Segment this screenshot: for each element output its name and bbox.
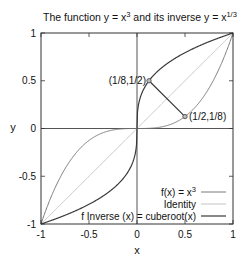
y-tick-label: 0.5 bbox=[22, 75, 36, 86]
plot-area: (1/8,1/2)(1/2,1/8) bbox=[41, 33, 233, 224]
x-tick-label: -1 bbox=[37, 229, 46, 240]
data-point-marker bbox=[183, 114, 187, 118]
legend-label: f(x) = x3 bbox=[161, 185, 196, 198]
legend-label: f Inverse (x) = cuberoot(x) bbox=[81, 211, 196, 222]
y-tick-label: -0.5 bbox=[19, 171, 37, 182]
y-tick-label: 0 bbox=[30, 123, 36, 134]
chart-svg: The function y = x3 and its inverse y = … bbox=[0, 0, 251, 267]
legend-label: Identity bbox=[164, 199, 196, 210]
x-tick-label: 0 bbox=[134, 229, 140, 240]
chart-title: The function y = x3 and its inverse y = … bbox=[43, 10, 237, 23]
x-tick-label: 0.5 bbox=[178, 229, 192, 240]
legend: f(x) = x3Identityf Inverse (x) = cuberoo… bbox=[81, 185, 226, 222]
y-tick-label: 1 bbox=[30, 28, 36, 39]
data-point-label: (1/2,1/8) bbox=[189, 111, 226, 122]
data-point-marker bbox=[147, 79, 151, 83]
chart-container: The function y = x3 and its inverse y = … bbox=[0, 0, 251, 267]
x-tick-label: 1 bbox=[230, 229, 236, 240]
y-axis-label: y bbox=[10, 121, 16, 133]
x-axis-label: x bbox=[134, 244, 140, 256]
axis-ticks: -1-0.500.51-1-0.500.51 bbox=[19, 28, 236, 241]
data-point-label: (1/8,1/2) bbox=[109, 75, 146, 86]
x-tick-label: -0.5 bbox=[80, 229, 98, 240]
y-tick-label: -1 bbox=[27, 219, 36, 230]
